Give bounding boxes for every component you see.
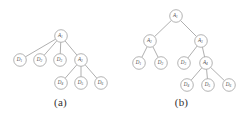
tree-node-attack-a1: A1: [55, 30, 68, 43]
tree-panel-a: A1D1D2D3A2D4D5D6 (a): [0, 0, 121, 118]
tree-node-defense-d4: D4: [181, 79, 194, 92]
tree-edge: [65, 65, 77, 79]
tree-node-defense-d1: D1: [133, 57, 146, 70]
tree-node-attack-a1: A1: [170, 10, 183, 23]
tree-node-attack-a2: A2: [75, 54, 88, 67]
tree-edge: [142, 47, 147, 58]
tree-panel-b: A1A2A3D1D2D3A4D4D5D6 (b): [121, 0, 242, 118]
tree-edge: [155, 20, 172, 36]
tree-node-attack-a4: A4: [200, 57, 213, 70]
caption-b: (b): [121, 96, 242, 108]
tree-edge: [188, 46, 197, 58]
tree-edge: [85, 65, 97, 79]
figure-root: A1D1D2D3A2D4D5D6 (a) A1A2A3D1D2D3A4D4D5D…: [0, 0, 242, 118]
tree-edge: [180, 20, 196, 36]
tree-edge: [211, 67, 225, 80]
tree-node-defense-d5: D5: [75, 77, 88, 90]
tree-edge: [153, 47, 158, 58]
caption-a: (a): [0, 96, 121, 108]
tree-edge: [65, 41, 77, 55]
tree-node-defense-d3: D3: [178, 57, 191, 70]
tree-node-defense-d2: D2: [155, 57, 168, 70]
tree-edge: [44, 41, 57, 56]
tree-node-defense-d4: D4: [55, 77, 68, 90]
tree-node-defense-d6: D6: [223, 79, 236, 92]
tree-node-defense-d2: D2: [34, 54, 47, 67]
tree-node-attack-a2: A2: [144, 35, 157, 48]
tree-node-defense-d1: D1: [14, 54, 27, 67]
tree-edge: [207, 69, 208, 78]
tree-node-defense-d3: D3: [54, 54, 67, 67]
tree-node-attack-a3: A3: [195, 35, 208, 48]
tree-node-defense-d5: D5: [202, 79, 215, 92]
tree-node-defense-d6: D6: [95, 77, 108, 90]
tree-edge: [202, 47, 204, 57]
tree-edge: [191, 68, 202, 80]
